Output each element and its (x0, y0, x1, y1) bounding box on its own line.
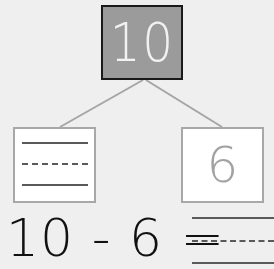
equation-answer-blank[interactable] (192, 215, 274, 265)
writing-line-middle-dashed (22, 163, 88, 165)
part-box-right: 6 (181, 127, 264, 203)
connector-right (146, 80, 222, 127)
writing-line-bottom (22, 184, 88, 186)
connector-left (60, 80, 143, 127)
whole-box: 10 (101, 5, 183, 80)
writing-line-top (22, 142, 88, 144)
answer-line-bottom (192, 262, 274, 264)
answer-line-middle-dashed (192, 240, 274, 242)
answer-line-top (192, 217, 274, 219)
part-right-value: 6 (207, 140, 239, 190)
whole-value: 10 (109, 16, 174, 70)
part-box-left-answer[interactable] (13, 127, 96, 203)
